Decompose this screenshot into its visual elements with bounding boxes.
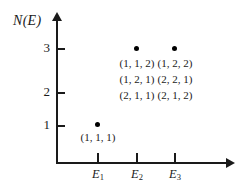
y-axis-label-2: 2 (34, 85, 50, 98)
x-axis-label-e3-symbol: E (169, 167, 177, 181)
x-axis-label-e2-symbol: E (131, 167, 139, 181)
energy-level-occupancy-chart: N(E) 3 2 1 E1 E2 E3 (1, 1, 1) (1, 1, 2) … (0, 0, 241, 191)
y-axis-tick-1 (58, 125, 65, 127)
x-axis-tick-e2 (136, 153, 138, 162)
state-label-e1-line1: (1, 1, 1) (68, 130, 128, 144)
x-axis-tick-e3 (174, 153, 176, 162)
y-axis-tick-2 (58, 92, 65, 94)
x-axis-label-e1-symbol: E (92, 167, 100, 181)
state-labels-e1: (1, 1, 1) (68, 130, 128, 144)
x-axis-label-e3-subscript: 3 (177, 172, 181, 182)
y-axis-title: N(E) (13, 13, 41, 29)
data-point-e1 (95, 122, 100, 127)
y-axis-tick-3 (58, 48, 65, 50)
x-axis-arrow-icon (226, 158, 235, 168)
y-axis-label-3: 3 (34, 41, 50, 54)
x-axis-line (56, 162, 228, 164)
x-axis-label-e2-subscript: 2 (139, 172, 143, 182)
y-axis-label-1: 1 (34, 118, 50, 131)
x-axis-label-e1-subscript: 1 (100, 172, 104, 182)
state-labels-e3: (1, 2, 2) (2, 2, 1) (2, 1, 2) (144, 55, 206, 103)
y-axis-arrow-icon (52, 12, 62, 21)
data-point-e2 (134, 46, 139, 51)
x-axis-label-e3: E3 (155, 167, 195, 184)
x-axis-tick-e1 (97, 153, 99, 162)
x-axis-label-e2: E2 (117, 167, 157, 184)
x-axis-label-e1: E1 (78, 167, 118, 184)
state-label-e3-line3: (2, 1, 2) (144, 87, 206, 103)
state-label-e3-line1: (1, 2, 2) (144, 55, 206, 71)
state-label-e3-line2: (2, 2, 1) (144, 71, 206, 87)
data-point-e3 (172, 46, 177, 51)
